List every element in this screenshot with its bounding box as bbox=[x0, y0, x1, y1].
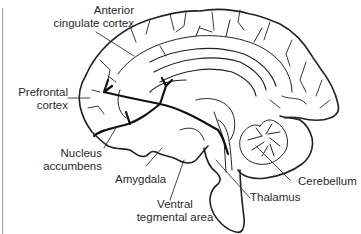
label-prefrontal-cortex: Prefrontal cortex bbox=[10, 86, 68, 112]
label-line: accumbens bbox=[40, 160, 102, 173]
label-line: Ventral bbox=[130, 198, 220, 211]
label-line: Thalamus bbox=[250, 191, 301, 204]
label-nucleus-accumbens: Nucleus accumbens bbox=[40, 147, 102, 173]
label-line: tegmental area bbox=[130, 211, 220, 224]
cerebellum-outline bbox=[238, 116, 313, 179]
label-ventral-tegmental-area: Ventral tegmental area bbox=[130, 198, 220, 224]
label-line: Cerebellum bbox=[298, 175, 357, 188]
label-line: Amygdala bbox=[115, 173, 166, 186]
corpus-callosum bbox=[150, 48, 276, 96]
label-amygdala: Amygdala bbox=[115, 173, 166, 186]
label-line: cortex bbox=[10, 99, 68, 112]
label-line: Nucleus bbox=[40, 147, 102, 160]
label-line: Prefrontal bbox=[10, 86, 68, 99]
dopamine-pathway bbox=[94, 78, 228, 154]
label-thalamus: Thalamus bbox=[250, 191, 301, 204]
label-line: Anterior bbox=[40, 4, 134, 17]
label-anterior-cingulate-cortex: Anterior cingulate cortex bbox=[40, 4, 134, 30]
leader-lines bbox=[68, 32, 290, 200]
label-line: cingulate cortex bbox=[40, 17, 134, 30]
cerebellum-arbor bbox=[240, 120, 288, 164]
label-cerebellum: Cerebellum bbox=[298, 175, 357, 188]
